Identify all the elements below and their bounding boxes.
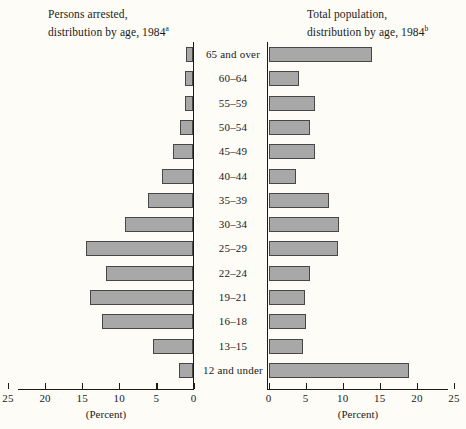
axis-tick <box>119 383 120 389</box>
bar-population-40-44 <box>269 169 296 184</box>
bar-arrested-30-34 <box>125 217 193 232</box>
age-label-30-34: 30–34 <box>197 218 269 230</box>
right-chart-baseline <box>267 389 448 390</box>
right-panel-title-line2: distribution by age, 1984 <box>307 25 425 37</box>
axis-tick-label-25: 25 <box>448 392 459 404</box>
bar-population-25-29 <box>269 241 338 256</box>
right-panel-title-line1: Total population, <box>307 8 387 20</box>
age-label-65-and-over: 65 and over <box>197 48 269 60</box>
axis-tick-label-0: 0 <box>266 392 272 404</box>
age-label-55-59: 55–59 <box>197 97 269 109</box>
left-chart-baseline <box>18 389 194 390</box>
bar-population-60-64 <box>269 71 299 86</box>
bar-arrested-60-64 <box>185 71 193 86</box>
bar-population-45-49 <box>269 144 315 159</box>
age-label-12-and-under: 12 and under <box>197 364 269 376</box>
axis-tick <box>156 383 157 389</box>
right-axis-caption: (Percent) <box>338 408 378 420</box>
bar-arrested-13-15 <box>153 339 194 354</box>
left-panel-title-line2: distribution by age, 1984 <box>48 25 166 37</box>
axis-tick <box>343 383 344 389</box>
axis-tick-label-5: 5 <box>154 392 160 404</box>
axis-tick <box>417 383 418 389</box>
bar-population-12-and-under <box>269 363 410 378</box>
age-label-50-54: 50–54 <box>197 121 269 133</box>
axis-tick-label-0: 0 <box>191 392 197 404</box>
bar-population-30-34 <box>269 217 339 232</box>
bar-arrested-12-and-under <box>179 363 194 378</box>
axis-tick <box>380 383 381 389</box>
bar-arrested-19-21 <box>90 290 194 305</box>
axis-tick-label-15: 15 <box>374 392 385 404</box>
left-panel-title: Persons arrested,distribution by age, 19… <box>48 8 169 39</box>
bar-arrested-55-59 <box>185 96 194 111</box>
left-axis-caption: (Percent) <box>86 408 126 420</box>
bar-population-55-59 <box>269 96 316 111</box>
bar-arrested-22-24 <box>106 266 194 281</box>
left-panel-title-footnote-marker: a <box>166 24 169 33</box>
axis-tick-label-20: 20 <box>411 392 422 404</box>
bar-arrested-65-and-over <box>186 47 193 62</box>
age-label-45-49: 45–49 <box>197 145 269 157</box>
bar-arrested-25-29 <box>86 241 194 256</box>
axis-tick <box>45 383 46 389</box>
bar-arrested-45-49 <box>173 144 193 159</box>
age-label-60-64: 60–64 <box>197 72 269 84</box>
age-label-35-39: 35–39 <box>197 194 269 206</box>
age-label-40-44: 40–44 <box>197 170 269 182</box>
left-panel-title-line1: Persons arrested, <box>48 8 128 20</box>
bar-population-19-21 <box>269 290 305 305</box>
bar-population-50-54 <box>269 120 311 135</box>
right-panel-title: Total population,distribution by age, 19… <box>307 8 428 39</box>
axis-tick <box>306 383 307 389</box>
bar-arrested-16-18 <box>102 314 193 329</box>
bar-population-35-39 <box>269 193 330 208</box>
axis-tick-label-15: 15 <box>76 392 87 404</box>
age-label-13-15: 13–15 <box>197 340 269 352</box>
axis-tick-label-5: 5 <box>303 392 309 404</box>
axis-tick <box>454 383 455 389</box>
axis-tick-label-10: 10 <box>337 392 348 404</box>
age-label-19-21: 19–21 <box>197 291 269 303</box>
bar-population-22-24 <box>269 266 311 281</box>
bar-arrested-35-39 <box>148 193 193 208</box>
axis-tick-label-25: 25 <box>2 392 13 404</box>
age-label-25-29: 25–29 <box>197 242 269 254</box>
bar-population-65-and-over <box>269 47 372 62</box>
axis-tick <box>82 383 83 389</box>
bar-population-16-18 <box>269 314 306 329</box>
axis-tick <box>269 383 270 389</box>
bar-population-13-15 <box>269 339 304 354</box>
bar-arrested-40-44 <box>162 169 193 184</box>
axis-tick <box>8 383 9 389</box>
axis-tick-label-20: 20 <box>39 392 50 404</box>
bar-arrested-50-54 <box>180 120 193 135</box>
right-panel-title-footnote-marker: b <box>425 24 429 33</box>
axis-tick-label-10: 10 <box>114 392 125 404</box>
age-label-22-24: 22–24 <box>197 267 269 279</box>
age-label-16-18: 16–18 <box>197 315 269 327</box>
axis-tick <box>194 383 195 389</box>
